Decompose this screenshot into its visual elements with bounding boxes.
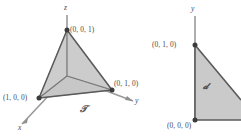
region-label-T: 𝒯 bbox=[80, 105, 87, 115]
vertex-dot-100 bbox=[37, 96, 42, 101]
y-axis-arrow-icon bbox=[125, 96, 133, 101]
region-shape bbox=[195, 45, 241, 120]
vertex-dot-010 bbox=[193, 43, 198, 48]
vertex-label-100: (1, 0, 0) bbox=[3, 94, 27, 101]
x-axis-label: x bbox=[18, 124, 21, 132]
figure-root: z x y (0, 0, 1) (1, 0, 0) (0, 1, 0) 𝒯 bbox=[0, 0, 241, 137]
vertex-dot-000 bbox=[193, 118, 198, 123]
vertex-dot-001 bbox=[65, 28, 70, 33]
vertex-dot-010 bbox=[110, 88, 115, 93]
y-axis-label: y bbox=[191, 5, 194, 13]
z-axis-label: z bbox=[64, 4, 67, 12]
y-axis-label: y bbox=[135, 97, 138, 105]
region-svg bbox=[150, 0, 241, 137]
vertex-label-000: (0, 0, 0) bbox=[167, 122, 191, 129]
tetrahedron-svg bbox=[0, 0, 150, 137]
vertex-label-010: (0, 1, 0) bbox=[114, 80, 138, 87]
vertex-label-001: (0, 0, 1) bbox=[70, 26, 94, 33]
region-label-D: 𝒹 bbox=[203, 82, 208, 92]
projection-region-diagram: y (0, 1, 0) (0, 0, 0) 𝒹 bbox=[150, 0, 241, 137]
vertex-label-010: (0, 1, 0) bbox=[152, 41, 176, 48]
tetrahedron-diagram: z x y (0, 0, 1) (1, 0, 0) (0, 1, 0) 𝒯 bbox=[0, 0, 150, 137]
